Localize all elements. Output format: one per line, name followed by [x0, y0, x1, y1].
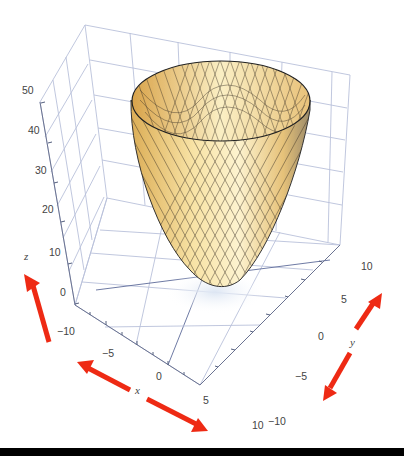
z-tick-0: 0 — [60, 286, 66, 298]
y-tick-0: 0 — [318, 330, 324, 342]
x-tick-10: 10 — [252, 419, 264, 431]
z-tick-40: 40 — [28, 124, 40, 136]
z-tick-20: 20 — [42, 203, 54, 215]
x-tick-labels: −10 −5 0 5 10 — [57, 325, 264, 431]
z-tick-50: 50 — [22, 84, 34, 96]
x-tick-neg5: −5 — [102, 347, 114, 359]
x-tick-5: 5 — [203, 394, 209, 406]
z-tick-labels: 50 40 30 20 10 0 — [22, 84, 66, 298]
paraboloid-surface — [60, 60, 380, 300]
z-tick-30: 30 — [35, 164, 47, 176]
y-tick-neg10: −10 — [268, 415, 286, 427]
bowl-rim — [132, 61, 310, 141]
y-axis-label: y — [349, 336, 355, 348]
z-axis-label: z — [23, 250, 29, 262]
x-tick-neg10: −10 — [57, 325, 75, 337]
z-tick-10: 10 — [49, 246, 61, 258]
paraboloid-3d-plot: 50 40 30 20 10 0 −10 −5 0 5 10 −10 −5 0 … — [0, 0, 404, 448]
bottom-black-bar — [0, 448, 404, 456]
x-axis-double-arrow — [77, 360, 208, 432]
y-tick-neg5: −5 — [295, 370, 307, 382]
x-axis-label: x — [134, 384, 140, 396]
y-tick-10: 10 — [361, 260, 373, 272]
y-tick-5: 5 — [341, 293, 347, 305]
x-tick-0: 0 — [156, 370, 162, 382]
y-tick-labels: −10 −5 0 5 10 — [268, 260, 373, 427]
z-axis-arrow — [24, 274, 49, 342]
